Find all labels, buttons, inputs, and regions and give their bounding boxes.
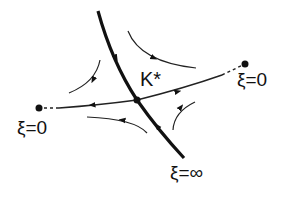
phase-portrait-diagram: K* ξ=0 ξ=0 ξ=∞ bbox=[0, 0, 284, 197]
trajectory-bottom-right bbox=[173, 102, 195, 130]
trajectory-bottom-right-arrow bbox=[177, 107, 181, 112]
trajectory-bottom-left bbox=[87, 117, 147, 133]
endpoint-right bbox=[242, 61, 249, 68]
fixed-point-k-star bbox=[134, 97, 141, 104]
left-endpoint-label: ξ=0 bbox=[17, 118, 47, 137]
unstable-manifold-left bbox=[59, 100, 137, 108]
right-endpoint-label: ξ=0 bbox=[237, 70, 267, 89]
endpoint-left bbox=[36, 105, 43, 112]
fixed-point-label: K* bbox=[140, 69, 161, 89]
trajectory-top-left bbox=[69, 60, 100, 93]
trajectory-top-right bbox=[128, 31, 196, 68]
diagram-canvas bbox=[0, 0, 284, 197]
bottom-endpoint-label: ξ=∞ bbox=[170, 163, 203, 182]
unstable-arrow-right bbox=[172, 92, 178, 94]
